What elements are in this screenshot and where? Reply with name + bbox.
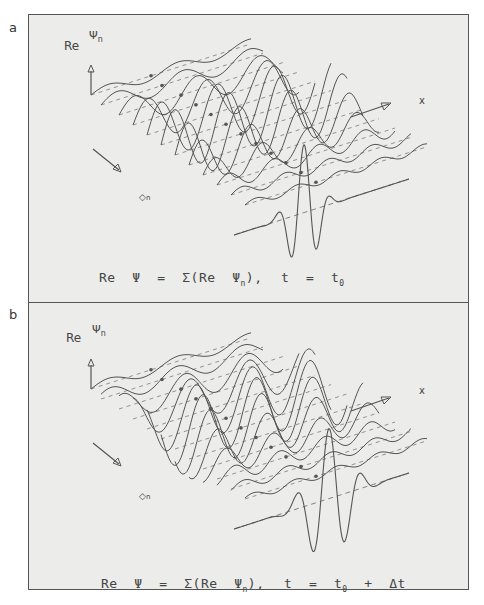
partial-wave bbox=[101, 345, 263, 400]
time-b: t = t0 + Δt bbox=[234, 561, 406, 605]
y-axis-symbol-a: Ψn bbox=[89, 29, 103, 44]
y-axis-label-a: Re bbox=[64, 39, 79, 53]
equation-b: Re Ψ = Σ(Re Ψn), bbox=[51, 561, 265, 605]
x-axis-symbol-a: x bbox=[419, 95, 425, 106]
resultant-wave-packet bbox=[234, 145, 409, 257]
wave-stack-plot-b bbox=[29, 303, 470, 590]
panel-label-a: a bbox=[9, 20, 17, 35]
y-axis-symbol-b: Ψn bbox=[92, 323, 106, 338]
panel-label-b: b bbox=[9, 307, 17, 322]
partial-wave bbox=[217, 422, 395, 486]
panel-a: Re Ψn ◇n x Re Ψ = Σ(Re Ψn), t = t0 bbox=[29, 15, 468, 302]
x-axis-symbol-b: x bbox=[419, 385, 425, 396]
partial-wave bbox=[91, 39, 251, 95]
partial-wave bbox=[175, 74, 347, 171]
n-axis-symbol-a: ◇n bbox=[139, 192, 150, 202]
time-a: t = t0 bbox=[231, 255, 345, 303]
partial-wave bbox=[119, 353, 283, 412]
axes bbox=[88, 65, 391, 172]
resultant-wave-packet bbox=[234, 429, 409, 552]
figure-frame: Re Ψn ◇n x Re Ψ = Σ(Re Ψn), t = t0 Re Ψn… bbox=[28, 14, 469, 590]
partial-wave bbox=[189, 93, 363, 174]
y-axis-label-b: Re bbox=[66, 331, 81, 345]
n-axis-symbol-b: ◇n bbox=[139, 491, 150, 501]
axes bbox=[88, 359, 391, 466]
panel-b: Re Ψn ◇n x Re Ψ = Σ(Re Ψn), t = t0 + Δt bbox=[29, 303, 468, 590]
